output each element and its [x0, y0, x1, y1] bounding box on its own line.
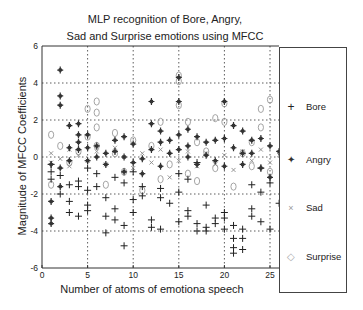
legend-item-sad: × Sad: [280, 201, 348, 215]
y-tick-label: 0: [33, 152, 38, 162]
x-tick-label: 10: [128, 270, 138, 280]
x-tick-label: 15: [174, 270, 184, 280]
y-tick-label: -6: [30, 263, 38, 273]
y-tick-label: 2: [33, 115, 38, 125]
legend-item-surprise: ◇ Surprise: [280, 250, 348, 264]
legend-item-bore: + Bore: [280, 100, 348, 114]
y-axis-label: Magnitude of MFCC Coefficients: [16, 76, 28, 236]
diamond-marker-icon: ◇: [286, 250, 296, 264]
legend-label: Sad: [306, 201, 323, 215]
star-marker-icon: ✦: [286, 153, 296, 167]
legend-label: Angry: [306, 153, 331, 167]
y-tick-label: 4: [33, 78, 38, 88]
x-marker-icon: ×: [286, 201, 296, 215]
x-tick-label: 0: [40, 270, 45, 280]
plus-marker-icon: +: [286, 100, 296, 114]
y-tick-label: -4: [30, 226, 38, 236]
y-tick-label: -2: [30, 189, 38, 199]
y-tick-label: 6: [33, 41, 38, 51]
x-tick-label: 25: [265, 270, 275, 280]
legend-label: Surprise: [306, 250, 341, 264]
x-axis-label: Number of atoms of emotiona speech: [52, 283, 252, 295]
legend-item-angry: ✦ Angry: [280, 153, 348, 167]
x-tick-label: 5: [85, 270, 90, 280]
legend-label: Bore: [306, 100, 326, 114]
x-tick-label: 20: [220, 270, 230, 280]
legend: + Bore ✦ Angry × Sad ◇ Surprise: [279, 47, 347, 293]
